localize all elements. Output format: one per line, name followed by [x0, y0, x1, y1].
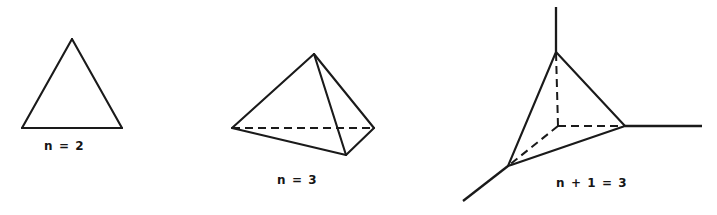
- caption-tetrahedron: n = 3: [277, 172, 318, 187]
- tetrahedron-3-simplex-edge-4: [346, 128, 374, 155]
- tetrahedron-3-simplex: [232, 54, 374, 155]
- dual-star-configuration-ray-lower-left: [463, 166, 508, 201]
- dual-star-configuration: [463, 7, 702, 201]
- tetrahedron-3-simplex-edge-1: [314, 54, 374, 128]
- triangle-2-simplex: [22, 39, 122, 128]
- caption-triangle: n = 2: [44, 138, 85, 153]
- tetrahedron-3-simplex-edge-0: [232, 54, 314, 128]
- dual-star-configuration-hidden-edge-0: [556, 52, 558, 126]
- figure-board: n = 2 n = 3 n + 1 = 3: [0, 0, 717, 215]
- figure-group: [22, 7, 702, 201]
- dual-star-configuration-edge-2: [508, 126, 625, 166]
- caption-dual-star: n + 1 = 3: [556, 175, 628, 190]
- triangle-2-simplex-edge-2: [72, 39, 122, 128]
- dual-star-configuration-edge-0: [508, 52, 556, 166]
- triangle-2-simplex-edge-0: [22, 39, 72, 128]
- tetrahedron-3-simplex-edge-3: [232, 128, 346, 155]
- tetrahedron-3-simplex-edge-2: [314, 54, 346, 155]
- dual-star-configuration-edge-1: [556, 52, 625, 126]
